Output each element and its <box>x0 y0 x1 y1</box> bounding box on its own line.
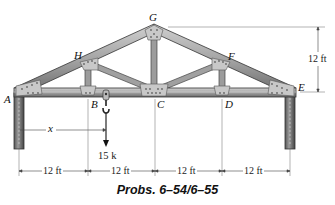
joint-label-G: G <box>149 12 157 23</box>
span-label-BC: 12 ft <box>110 166 131 176</box>
x-dimension <box>20 129 106 132</box>
load-arrow-head <box>103 140 109 147</box>
span-label-AB: 12 ft <box>42 166 63 176</box>
joint-label-H: H <box>74 50 82 61</box>
height-dimension-label: 12 ft <box>307 54 328 64</box>
span-label-DE: 12 ft <box>243 166 264 176</box>
joint-label-C: C <box>157 99 164 110</box>
hook-load <box>103 90 109 147</box>
joint-label-E: E <box>298 82 305 93</box>
extension-lines <box>19 27 325 176</box>
position-variable-x: x <box>48 123 53 134</box>
right-column <box>285 93 295 149</box>
joint-label-A: A <box>4 94 11 105</box>
figure-caption: Probs. 6–54/6–55 <box>0 183 335 197</box>
joint-label-D: D <box>225 99 233 110</box>
joint-label-F: F <box>228 51 235 62</box>
load-label: 15 k <box>97 151 117 162</box>
joint-label-B: B <box>91 99 98 110</box>
gusset-D <box>214 86 230 95</box>
left-column <box>14 93 24 149</box>
gusset-B <box>80 86 96 95</box>
truss-figure: G H F A B C D E x 15 k 12 ft 12 ft 12 ft… <box>0 0 335 205</box>
span-label-CD: 12 ft <box>176 166 197 176</box>
gusset-C <box>140 84 168 96</box>
